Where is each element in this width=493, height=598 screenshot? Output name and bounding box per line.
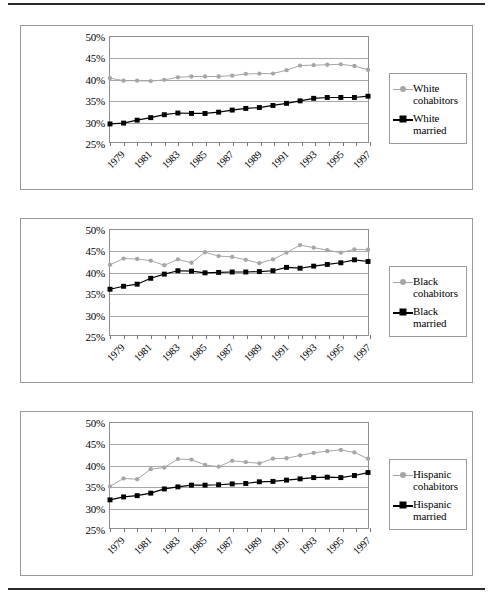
- plot-area: 50%45%40%35%30%25%1979198119831985198719…: [109, 36, 369, 143]
- x-axis-tick-label: 1985: [187, 535, 209, 557]
- data-point-circle: [149, 258, 153, 262]
- x-axis-tick: [110, 142, 111, 146]
- data-point-square: [298, 476, 303, 481]
- data-point-circle: [366, 68, 370, 72]
- data-point-square: [284, 478, 289, 483]
- data-point-circle: [339, 251, 343, 255]
- legend-item[interactable]: Whitemarried: [393, 112, 462, 137]
- x-axis-tick: [288, 528, 289, 532]
- data-point-square: [325, 95, 330, 100]
- bottom-divider-rule: [8, 588, 485, 590]
- y-axis-tick-label: 30%: [85, 310, 105, 321]
- x-axis-tick: [137, 528, 138, 532]
- data-point-square: [203, 111, 208, 116]
- x-axis-tick: [343, 335, 344, 339]
- x-axis-tick: [356, 335, 357, 339]
- legend-item[interactable]: Hispaniccohabitors: [393, 468, 462, 493]
- x-axis-tick: [233, 335, 234, 339]
- data-point-circle: [366, 248, 370, 252]
- x-axis-tick: [219, 142, 220, 146]
- data-point-circle: [244, 72, 248, 76]
- series-layer: [110, 230, 368, 335]
- legend-item[interactable]: Blackmarried: [393, 305, 462, 330]
- data-point-square: [257, 105, 262, 110]
- x-axis-tick-label: 1985: [187, 342, 209, 364]
- y-axis-tick-label: 30%: [85, 117, 105, 128]
- data-point-circle: [352, 450, 356, 454]
- data-point-circle: [176, 457, 180, 461]
- x-axis-tick-label: 1987: [214, 535, 236, 557]
- series-circle: [108, 448, 370, 489]
- data-point-circle: [189, 457, 193, 461]
- data-point-circle: [203, 463, 207, 467]
- y-axis-tick-label: 25%: [85, 139, 105, 150]
- data-point-square: [148, 115, 153, 120]
- data-point-circle: [325, 63, 329, 67]
- x-axis-tick: [356, 528, 357, 532]
- x-axis-tick: [192, 335, 193, 339]
- legend-item[interactable]: Blackcohabitors: [393, 275, 462, 300]
- x-axis-tick: [302, 335, 303, 339]
- data-point-circle: [216, 74, 220, 78]
- legend-label: Whitecohabitors: [413, 82, 458, 107]
- x-axis-tick: [219, 528, 220, 532]
- chart-area-black: 50%45%40%35%30%25%1979198119831985198719…: [21, 219, 472, 382]
- data-point-square: [148, 276, 153, 281]
- x-axis-tick-label: 1993: [297, 149, 319, 171]
- data-point-square: [108, 497, 113, 502]
- figure-page: 50%45%40%35%30%25%1979198119831985198719…: [0, 0, 493, 598]
- x-axis-tick: [178, 528, 179, 532]
- plot-area: 50%45%40%35%30%25%1979198119831985198719…: [109, 422, 369, 529]
- series-circle: [108, 62, 370, 83]
- data-point-square: [135, 493, 140, 498]
- legend-label: Hispanicmarried: [413, 498, 451, 523]
- x-axis-tick-label: 1995: [324, 535, 346, 557]
- legend-label: Whitemarried: [413, 112, 447, 137]
- y-axis-tick-label: 40%: [85, 74, 105, 85]
- y-axis-tick-label: 30%: [85, 503, 105, 514]
- x-axis-tick: [178, 142, 179, 146]
- data-point-circle: [203, 74, 207, 78]
- x-axis-tick: [247, 142, 248, 146]
- data-point-circle: [176, 257, 180, 261]
- data-point-circle: [257, 261, 261, 265]
- x-axis-tick: [110, 528, 111, 532]
- x-axis-tick: [370, 528, 371, 532]
- data-point-circle: [149, 79, 153, 83]
- series-square: [108, 470, 371, 502]
- x-axis-tick: [124, 142, 125, 146]
- x-axis-tick: [261, 335, 262, 339]
- data-point-circle: [271, 257, 275, 261]
- data-point-square: [311, 264, 316, 269]
- data-point-circle: [311, 63, 315, 67]
- y-axis-tick-label: 50%: [85, 32, 105, 43]
- x-axis-tick: [247, 335, 248, 339]
- x-axis-tick: [329, 528, 330, 532]
- data-point-circle: [149, 467, 153, 471]
- chart-legend: HispaniccohabitorsHispanicmarried: [389, 459, 467, 530]
- data-point-square: [284, 265, 289, 270]
- data-point-square: [230, 270, 235, 275]
- legend-item[interactable]: Hispanicmarried: [393, 498, 462, 523]
- data-point-square: [189, 269, 194, 274]
- data-point-square: [311, 475, 316, 480]
- chart-panel-black: 50%45%40%35%30%25%1979198119831985198719…: [20, 218, 473, 383]
- data-point-circle: [366, 457, 370, 461]
- y-axis-tick-label: 45%: [85, 246, 105, 257]
- data-point-square: [270, 103, 275, 108]
- legend-item[interactable]: Whitecohabitors: [393, 82, 462, 107]
- data-point-circle: [257, 461, 261, 465]
- data-point-square: [203, 270, 208, 275]
- y-axis-tick-label: 35%: [85, 482, 105, 493]
- series-square: [108, 257, 371, 291]
- x-axis-tick: [137, 142, 138, 146]
- x-axis-tick-label: 1995: [324, 149, 346, 171]
- data-point-square: [230, 481, 235, 486]
- chart-panel-white: 50%45%40%35%30%25%1979198119831985198719…: [20, 25, 473, 190]
- data-point-circle: [108, 484, 112, 488]
- series-layer: [110, 37, 368, 142]
- data-point-square: [216, 482, 221, 487]
- data-point-circle: [135, 477, 139, 481]
- x-axis-tick: [370, 335, 371, 339]
- data-point-square: [243, 106, 248, 111]
